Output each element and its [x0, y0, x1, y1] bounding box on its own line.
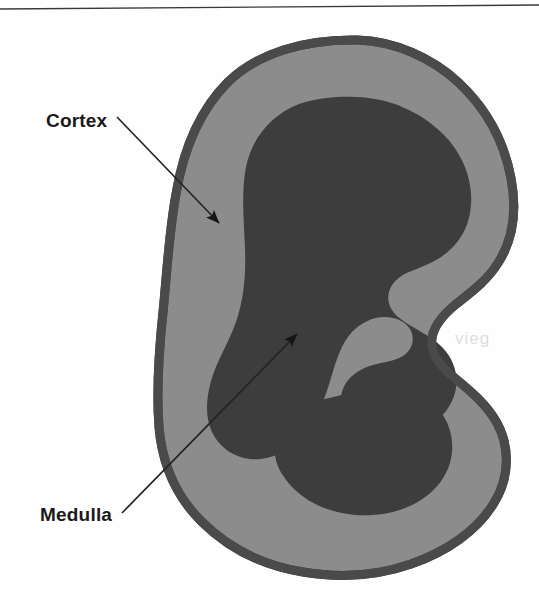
- bleed-through-text: vieg: [455, 329, 490, 348]
- cortex-label: Cortex: [46, 110, 108, 131]
- figure-page: vieg Cortex: [0, 0, 539, 606]
- bleed-through-artifact: vieg: [455, 329, 490, 348]
- kidney-cross-section-figure: vieg Cortex: [0, 0, 539, 606]
- medulla-label: Medulla: [40, 504, 112, 525]
